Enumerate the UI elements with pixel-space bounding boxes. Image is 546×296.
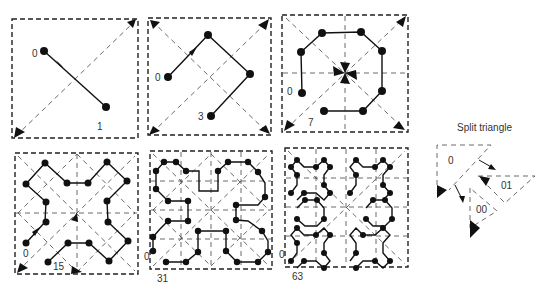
triangle-label-00: 00 — [476, 204, 488, 215]
curve-point — [124, 178, 131, 185]
curve-point — [246, 70, 254, 78]
curve-path — [153, 162, 268, 262]
curve-point — [102, 103, 110, 111]
corner-triangle-icon — [393, 121, 405, 130]
corner-triangle-icon — [127, 19, 136, 28]
curve-point — [223, 248, 229, 254]
parent-triangle — [437, 145, 491, 190]
curve-point — [294, 172, 300, 178]
start-label: 0 — [32, 48, 38, 59]
curve-point — [321, 157, 327, 163]
curve-point — [288, 190, 294, 196]
curve-point — [321, 265, 327, 271]
curve-point — [43, 219, 50, 226]
curve-point — [265, 249, 271, 255]
curve-point — [204, 31, 212, 39]
curve-point — [104, 198, 111, 205]
panel-level-3: 0 7 — [282, 15, 408, 132]
curve-point — [359, 107, 367, 115]
curve-point — [347, 190, 353, 196]
curve-point — [294, 157, 300, 163]
corner-triangle-icon — [259, 125, 270, 134]
curve-point — [353, 250, 359, 256]
split-triangle-legend: Split triangle 0 01 00 — [437, 122, 535, 238]
start-label: 0 — [279, 249, 285, 260]
corner-triangle-icon — [470, 220, 480, 238]
curve-point — [382, 197, 388, 203]
corner-triangle-icon — [396, 16, 406, 27]
curve-point — [301, 258, 307, 264]
curve-point — [327, 164, 333, 170]
curve-point — [65, 240, 72, 247]
panel-level-5: 0 31 — [144, 151, 272, 284]
curve-point — [327, 232, 333, 238]
curve-path — [291, 228, 330, 268]
curve-point — [378, 87, 386, 95]
end-label: 31 — [157, 273, 169, 284]
arrow-head-icon — [459, 196, 465, 203]
curve-point — [183, 168, 189, 174]
curve-point — [173, 159, 179, 165]
curve-point — [185, 218, 191, 224]
curve-point — [380, 225, 386, 231]
curve-point — [165, 218, 171, 224]
curve-point — [302, 197, 308, 203]
curve-point — [363, 216, 369, 222]
curve-point — [353, 172, 359, 178]
end-label: 3 — [198, 111, 204, 122]
curve-point — [360, 232, 366, 238]
curve-point — [370, 197, 376, 203]
curve-point — [297, 48, 305, 56]
corner-triangle-icon — [17, 263, 28, 273]
panel-level-1: 0 1 — [12, 19, 138, 138]
curve-point — [40, 47, 48, 55]
curve-point — [233, 217, 239, 223]
corner-triangle-icon — [479, 176, 490, 186]
curve-point — [45, 259, 52, 266]
corner-triangle-icon — [258, 19, 269, 30]
curve-point — [64, 180, 71, 187]
curve-points — [288, 157, 395, 271]
curve-point — [389, 216, 395, 222]
curve-point — [125, 238, 132, 245]
curve-path — [366, 200, 392, 226]
curve-point — [378, 47, 386, 55]
curve-point — [161, 159, 167, 165]
curve-point — [387, 258, 393, 264]
curve-point — [372, 258, 378, 264]
curve-path — [297, 200, 324, 226]
corner-triangle-icon — [437, 185, 447, 198]
curve-point — [223, 228, 229, 234]
curve-point — [327, 190, 333, 196]
start-label: 0 — [287, 86, 293, 97]
corner-triangle-icon — [71, 266, 82, 274]
start-label: 0 — [23, 248, 29, 259]
curve-point — [380, 157, 386, 163]
curve-point — [301, 190, 307, 196]
curve-point — [234, 259, 240, 265]
curve-point — [372, 164, 378, 170]
legend-title: Split triangle — [457, 122, 512, 133]
curve-point — [357, 28, 365, 36]
curve-point — [23, 181, 30, 188]
curve-point — [294, 240, 300, 246]
end-label: 7 — [308, 117, 314, 128]
curve-point — [318, 29, 326, 37]
curve-point — [245, 159, 251, 165]
panel-level-4: 0 15 — [15, 153, 138, 274]
curve-path — [350, 160, 390, 200]
curve-point — [321, 216, 327, 222]
curve-point — [163, 259, 169, 265]
start-label: 0 — [144, 251, 150, 262]
curve-point — [207, 112, 215, 120]
curve-point — [233, 202, 239, 208]
curve-path — [350, 228, 390, 268]
curve-point — [225, 159, 231, 165]
triangle-label-0: 0 — [448, 155, 454, 166]
curve-point — [313, 164, 319, 170]
curve-point — [185, 198, 191, 204]
curve-pattern — [291, 160, 392, 268]
curve-point — [294, 225, 300, 231]
end-label: 15 — [53, 261, 65, 272]
curve-point — [321, 182, 327, 188]
